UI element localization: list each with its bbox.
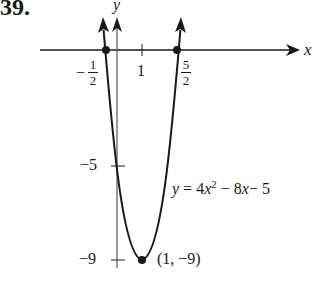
parabola-graph bbox=[0, 0, 323, 288]
y-tick-label-minus5: −5 bbox=[80, 156, 97, 174]
x-tick-label-1: 1 bbox=[137, 62, 145, 80]
eq-part: − 5 bbox=[249, 180, 270, 197]
y-tick-label-minus9: −9 bbox=[79, 250, 96, 268]
frac-num: 5 bbox=[183, 57, 190, 72]
y-axis-label: y bbox=[113, 0, 120, 14]
equation-label: y = 4x2 − 8x− 5 bbox=[172, 178, 270, 198]
x-tick-label-neg-half-sign: − bbox=[76, 64, 85, 82]
eq-part: − 8 bbox=[217, 180, 242, 197]
eq-x: x bbox=[242, 180, 249, 197]
eq-part: = 4 bbox=[179, 180, 204, 197]
frac-den: 2 bbox=[90, 73, 97, 88]
frac-num: 1 bbox=[90, 57, 97, 72]
vertex-label: (1, −9) bbox=[157, 250, 201, 268]
root-point-right bbox=[173, 46, 181, 54]
x-axis-label: x bbox=[304, 40, 312, 60]
root-point-left bbox=[102, 46, 110, 54]
x-tick-label-five-halves: 5 2 bbox=[181, 58, 191, 87]
x-tick-label-neg-half: 1 2 bbox=[88, 58, 98, 87]
vertex-point bbox=[138, 256, 146, 264]
frac-den: 2 bbox=[183, 73, 190, 88]
